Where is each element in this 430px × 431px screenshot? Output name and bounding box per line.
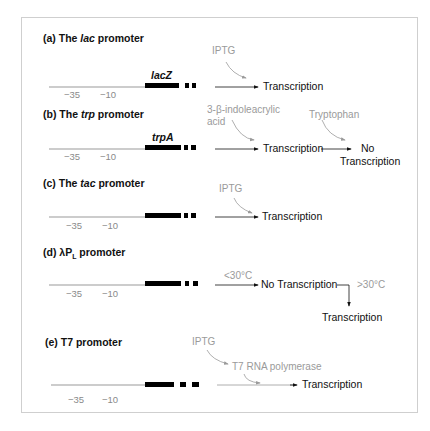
tick-minus35: −35 xyxy=(64,151,80,162)
outcome-transcription: Transcription xyxy=(262,210,322,222)
repressor-tryptophan: Tryptophan xyxy=(309,109,359,120)
outcome-transcription: Transcription xyxy=(322,311,382,323)
lacz-gene-label: lacZ xyxy=(151,69,172,81)
tick-minus10: −10 xyxy=(102,394,118,405)
condition-above-30c: >30°C xyxy=(357,279,385,290)
outcome-transcription: Transcription xyxy=(263,142,323,154)
lac-dna xyxy=(49,83,196,88)
inducer-indoleacrylic-acid-line1: 3-β-indoleacrylic xyxy=(207,104,280,115)
outcome-transcription: Transcription xyxy=(302,378,362,390)
panel-b-title: (b) The trp promoter xyxy=(43,108,144,120)
panel-d-title: (d) λPL promoter xyxy=(43,246,125,260)
t7-dna xyxy=(51,382,199,387)
t7-rna-polymerase: T7 RNA polymerase xyxy=(232,361,321,372)
inducer-iptg: IPTG xyxy=(219,183,242,194)
lambda-dna xyxy=(49,281,198,286)
panel-e-title: (e) T7 promoter xyxy=(45,336,122,348)
trpa-gene-label: trpA xyxy=(152,131,174,143)
diagram-graphics xyxy=(0,0,430,431)
tick-minus10: −10 xyxy=(100,151,116,162)
tick-minus35: −35 xyxy=(66,220,82,231)
inducer-iptg: IPTG xyxy=(192,336,215,347)
panel-a-title: (a) The lac promoter xyxy=(43,32,144,44)
outcome-no-transcription: No Transcription xyxy=(261,278,337,290)
inducer-iptg: IPTG xyxy=(212,45,235,56)
inducer-indoleacrylic-acid-line2: acid xyxy=(207,116,225,127)
tick-minus35: −35 xyxy=(68,394,84,405)
trp-dna xyxy=(49,145,196,150)
final-transcription: Transcription xyxy=(340,155,400,167)
panel-c-title: (c) The tac promoter xyxy=(43,177,145,189)
tick-minus10: −10 xyxy=(102,288,118,299)
tick-minus10: −10 xyxy=(100,89,116,100)
tick-minus10: −10 xyxy=(102,220,118,231)
condition-below-30c: <30°C xyxy=(224,270,252,281)
final-no: No xyxy=(361,142,374,154)
tick-minus35: −35 xyxy=(66,288,82,299)
tac-dna xyxy=(49,213,196,218)
outcome-transcription: Transcription xyxy=(263,80,323,92)
tick-minus35: −35 xyxy=(64,89,80,100)
